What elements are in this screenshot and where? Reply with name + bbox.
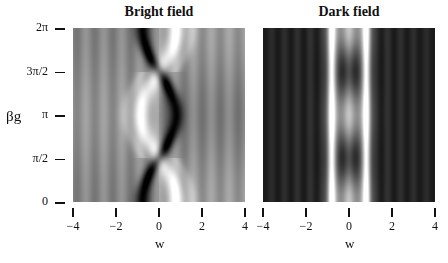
x-tick-label: 2 [190,219,214,234]
x-tick-label: −4 [61,219,85,234]
y-tick-label: 0 [8,194,48,209]
x-tick-label: 0 [337,219,361,234]
x-tick-mark [72,208,74,217]
y-tick-mark [55,159,65,161]
x-tick-mark [348,208,350,217]
x-tick-mark [244,208,246,217]
y-tick-mark [55,115,65,117]
bright-field-title: Bright field [73,4,245,20]
x-tick-mark [115,208,117,217]
x-tick-label: −2 [294,219,318,234]
x-tick-mark [158,208,160,217]
x-tick-mark [391,208,393,217]
x-tick-mark [201,208,203,217]
x-tick-mark [305,208,307,217]
x-tick-label: 4 [423,219,447,234]
x-tick-label: 0 [147,219,171,234]
y-axis-label: βg [6,108,21,125]
dark-field-title: Dark field [263,4,435,20]
x-axis-label-bright: w [155,236,164,252]
bright-field-heatmap [73,28,245,202]
x-tick-label: −4 [251,219,275,234]
y-tick-label: 3π/2 [8,64,48,79]
x-axis-label-dark: w [345,236,354,252]
x-tick-mark [262,208,264,217]
y-tick-mark [55,28,65,30]
x-tick-label: −2 [104,219,128,234]
y-tick-mark [55,202,65,204]
x-tick-mark [434,208,436,217]
y-tick-label: 2π [8,20,48,35]
dark-field-heatmap [263,28,435,202]
x-tick-label: 2 [380,219,404,234]
y-tick-mark [55,72,65,74]
y-tick-label: π/2 [8,151,48,166]
